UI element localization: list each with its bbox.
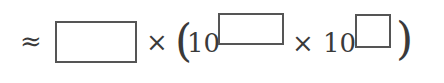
exponent-1-input-box[interactable] — [218, 13, 284, 45]
times-symbol-2: × — [292, 30, 314, 56]
approx-symbol: ≈ — [20, 28, 42, 54]
base-ten-1: 10 — [187, 30, 220, 56]
times-symbol: × — [146, 29, 168, 55]
exponent-2-input-box[interactable] — [355, 14, 391, 48]
coefficient-input-box[interactable] — [55, 21, 137, 63]
close-paren: ) — [396, 17, 413, 61]
base-ten-2: 10 — [323, 30, 356, 56]
